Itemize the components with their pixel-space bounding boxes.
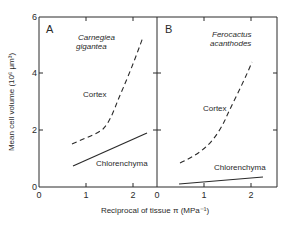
x-tick-a-1: 1 bbox=[83, 190, 88, 200]
y-tick-2: 2 bbox=[32, 125, 37, 135]
x-tick-b-2: 2 bbox=[248, 190, 253, 200]
x-tick-labels: 0 1 2 0 1 2 bbox=[36, 190, 253, 200]
x-tick-a-0: 0 bbox=[36, 190, 41, 200]
panel-b-species-line1: Ferocactus bbox=[212, 30, 252, 39]
figure: 0 2 4 6 0 1 2 0 1 2 Mean cell volume (10… bbox=[0, 0, 284, 231]
x-tick-a-2: 2 bbox=[130, 190, 135, 200]
x-tick-b-1: 1 bbox=[201, 190, 206, 200]
panel-a-species-line1: Carnegiea bbox=[78, 33, 115, 42]
panel-b-species-line2: acanthodes bbox=[210, 39, 251, 48]
panel-b-chlorenchyma-label: Chlorenchyma bbox=[214, 163, 266, 172]
x-axis-label: Reciprocal of tissue π (MPa⁻¹) bbox=[101, 206, 210, 215]
y-tick-6: 6 bbox=[32, 12, 37, 22]
panel-b-label: B bbox=[165, 23, 172, 35]
panel-a: A Carnegiea gigantea Cortex Chlorenchyma bbox=[46, 23, 148, 168]
chart-svg: 0 2 4 6 0 1 2 0 1 2 Mean cell volume (10… bbox=[0, 0, 284, 231]
y-tick-labels: 0 2 4 6 bbox=[32, 12, 37, 192]
panel-b-cortex-label: Cortex bbox=[203, 104, 227, 113]
panel-a-cortex-label: Cortex bbox=[83, 90, 107, 99]
x-tick-b-0: 0 bbox=[154, 190, 159, 200]
y-ticks bbox=[39, 73, 277, 130]
panel-b-chlorenchyma-line bbox=[179, 177, 263, 184]
y-tick-4: 4 bbox=[32, 68, 37, 78]
panel-b: B Ferocactus acanthodes Cortex Chlorench… bbox=[165, 23, 266, 184]
panel-a-label: A bbox=[46, 23, 54, 35]
panel-a-chlorenchyma-label: Chlorenchyma bbox=[96, 159, 148, 168]
panel-a-species-line2: gigantea bbox=[76, 42, 107, 51]
y-axis-label: Mean cell volume (10⁶ μm³) bbox=[7, 53, 16, 151]
